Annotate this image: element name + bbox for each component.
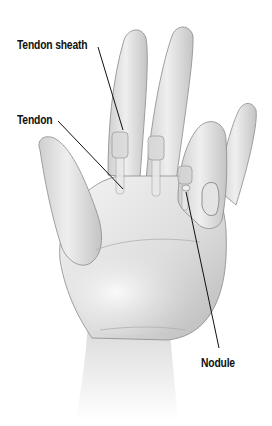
fingernail — [202, 182, 219, 215]
label-tendon-sheath: Tendon sheath — [17, 38, 87, 52]
hand-anatomy-diagram: Tendon sheath Tendon Nodule — [0, 0, 272, 426]
thumb — [39, 137, 102, 265]
label-tendon: Tendon — [17, 113, 52, 127]
label-nodule: Nodule — [201, 356, 235, 370]
